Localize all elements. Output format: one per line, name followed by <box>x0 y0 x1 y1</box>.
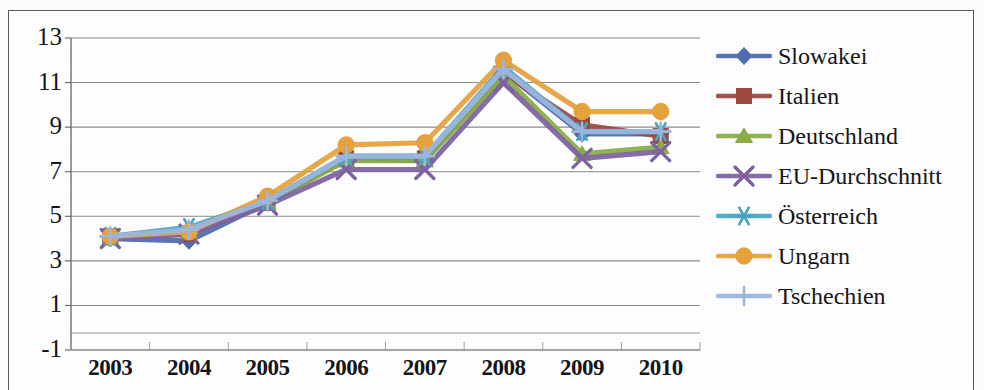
y-axis-tick-label: 5 <box>6 202 62 227</box>
x-axis-tick-label: 2005 <box>226 356 310 379</box>
legend-item[interactable]: Slowakei <box>716 36 978 76</box>
legend-item[interactable]: Tschechien <box>716 276 978 316</box>
data-point-marker-circle <box>574 103 590 119</box>
legend-swatch-plus-icon <box>716 283 772 309</box>
legend-swatch-asterisk-icon <box>716 203 772 229</box>
x-axis-tick-label: 2009 <box>540 356 624 379</box>
legend-label: Österreich <box>778 203 878 230</box>
data-point-marker-circle <box>652 103 668 119</box>
legend-label: Tschechien <box>778 283 886 310</box>
legend-swatch-diamond-icon <box>716 43 772 69</box>
legend-item[interactable]: EU-Durchschnitt <box>716 156 978 196</box>
legend-label: Ungarn <box>778 243 850 270</box>
legend-swatch-square-icon <box>716 83 772 109</box>
legend-label: EU-Durchschnitt <box>778 163 942 190</box>
legend-label: Italien <box>778 83 839 110</box>
legend-item[interactable]: Ungarn <box>716 236 978 276</box>
data-point-marker-square <box>737 89 752 104</box>
y-axis-tick-label: 1 <box>6 291 62 316</box>
legend-swatch-circle-icon <box>716 243 772 269</box>
legend-label: Slowakei <box>778 43 867 70</box>
axis-lines <box>65 38 700 350</box>
gridlines <box>71 38 700 350</box>
legend-swatch-cross-icon <box>716 163 772 189</box>
x-axis-tick-label: 2006 <box>304 356 388 379</box>
data-point-marker-plus <box>735 287 753 305</box>
legend-item[interactable]: Österreich <box>716 196 978 236</box>
x-axis-tick-label: 2003 <box>68 356 152 379</box>
legend-item[interactable]: Deutschland <box>716 116 978 156</box>
y-axis-tick-label: -1 <box>6 336 62 361</box>
y-axis-tick-label: 3 <box>6 247 62 272</box>
legend-swatch-triangle-icon <box>716 123 772 149</box>
x-axis-tick-label: 2008 <box>461 356 545 379</box>
x-axis-tickmarks <box>71 342 700 350</box>
data-point-marker-circle <box>736 248 752 264</box>
data-series-layer <box>101 52 670 249</box>
x-axis-tick-label: 2004 <box>147 356 231 379</box>
data-point-marker-diamond <box>736 48 752 65</box>
x-axis-tick-label: 2010 <box>619 356 703 379</box>
y-axis-tick-label: 7 <box>6 158 62 183</box>
data-point-marker-asterisk <box>735 208 754 224</box>
legend-item[interactable]: Italien <box>716 76 978 116</box>
legend-label: Deutschland <box>778 123 898 150</box>
y-axis-tick-label: 13 <box>6 24 62 49</box>
y-axis-tick-label: 9 <box>6 113 62 138</box>
legend: SlowakeiItalienDeutschlandEU-Durchschnit… <box>716 36 978 316</box>
x-axis-tick-label: 2007 <box>383 356 467 379</box>
y-axis-tick-label: 11 <box>6 69 62 94</box>
